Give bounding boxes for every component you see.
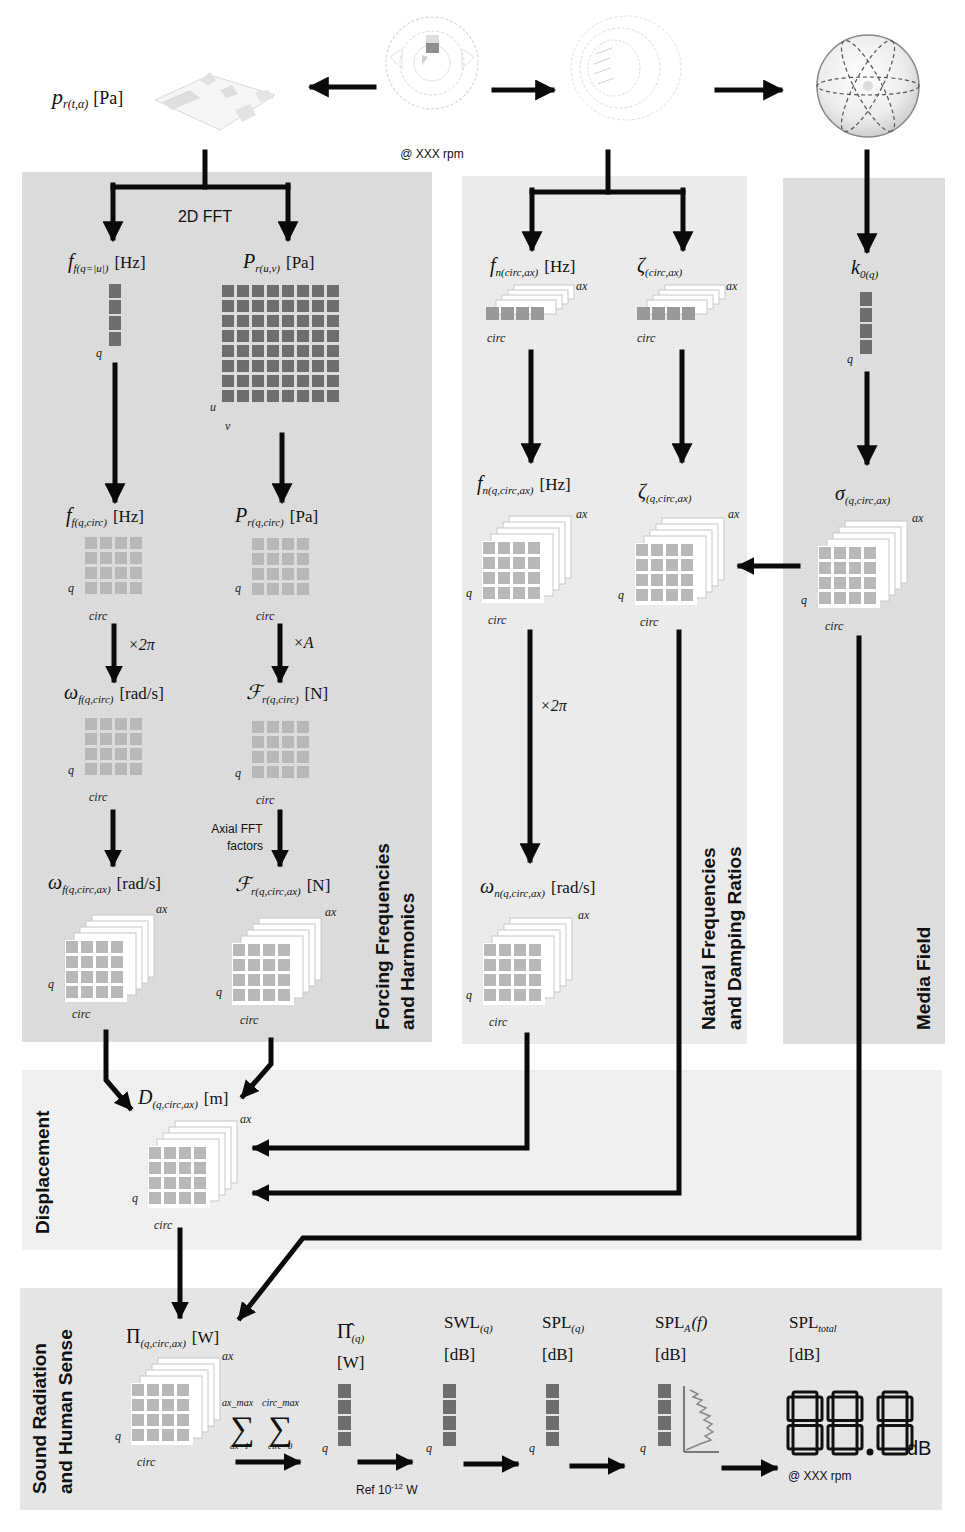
spl-total-display-caption: @ XXX rpm (788, 1469, 852, 1483)
spl-a-weighted-label: SPLA(f) (655, 1313, 708, 1334)
axis-circ: circ (89, 609, 108, 623)
radiation-sphere-icon (817, 35, 919, 137)
multiply-2pi-label-natural: ×2π (540, 697, 568, 714)
axis-q: q (466, 988, 472, 1002)
axis-ax: ax (156, 902, 168, 916)
spl-total-unit: [dB] (789, 1345, 820, 1364)
axis-q: q (216, 985, 222, 999)
sound-panel-title-2: and Human Sense (55, 1329, 76, 1494)
axis-circ: circ (240, 1013, 259, 1027)
multiply-2pi-label: ×2π (128, 636, 156, 653)
axis-q: q (68, 763, 74, 777)
axis-circ: circ (154, 1218, 173, 1232)
svg-text:ax=1: ax=1 (230, 1441, 249, 1451)
axis-q: q (529, 1441, 535, 1455)
axis-q: q (115, 1429, 121, 1443)
axis-circ: circ (489, 1015, 508, 1029)
axis-q: q (847, 352, 853, 366)
axis-q: q (801, 593, 807, 607)
axis-ax: ax (726, 279, 738, 293)
axis-circ: circ (637, 331, 656, 345)
axis-q: q (68, 581, 74, 595)
axis-circ: circ (89, 790, 108, 804)
axis-v: v (225, 419, 231, 433)
axis-ax: ax (912, 511, 924, 525)
axis-ax: ax (578, 908, 590, 922)
axis-circ: circ (488, 613, 507, 627)
axis-circ: circ (825, 619, 844, 633)
flow-diagram: pr(t,α)[Pa] @ XXX rpm (0, 0, 965, 1532)
axis-q: q (96, 346, 102, 360)
axis-ax: ax (240, 1112, 252, 1126)
axis-ax: ax (576, 507, 588, 521)
axis-q: q (132, 1191, 138, 1205)
stator-structure-icon (571, 16, 681, 120)
axis-circ: circ (137, 1455, 156, 1469)
top-row: pr(t,α)[Pa] @ XXX rpm (50, 16, 919, 161)
sound-power-q-unit: [W] (337, 1353, 364, 1372)
axis-circ: circ (256, 793, 275, 807)
axial-fft-label: Axial FFT (211, 822, 263, 836)
axis-u: u (210, 400, 216, 414)
axis-ax: ax (222, 1349, 234, 1363)
sound-panel-title: Sound Radiation (29, 1343, 50, 1494)
natural-panel-title-2: and Damping Ratios (724, 846, 745, 1030)
svg-text:ax_max: ax_max (222, 1397, 254, 1408)
spl-a-weighted-unit: [dB] (655, 1345, 686, 1364)
pressure-label: pr(t,α)[Pa] (50, 84, 123, 111)
fft-2d-label: 2D FFT (178, 208, 232, 225)
reference-power-label: Ref 10-12 W (356, 1482, 418, 1497)
forcing-panel-title-2: and Harmonics (397, 893, 418, 1030)
motor-speed-caption: @ XXX rpm (400, 147, 464, 161)
axial-fft-label-2: factors (227, 839, 263, 853)
natural-panel-title: Natural Frequencies (698, 847, 719, 1030)
axis-ax: ax (325, 905, 337, 919)
media-panel-title: Media Field (913, 927, 934, 1030)
axis-q: q (322, 1441, 328, 1455)
axis-q: q (466, 586, 472, 600)
axis-circ: circ (72, 1007, 91, 1021)
displacement-panel-title: Displacement (32, 1110, 53, 1234)
swl-unit: [dB] (444, 1345, 475, 1364)
axis-q: q (235, 766, 241, 780)
axis-q: q (235, 581, 241, 595)
axis-q: q (48, 977, 54, 991)
axis-ax: ax (728, 507, 740, 521)
axis-q: q (618, 588, 624, 602)
axis-circ: circ (487, 331, 506, 345)
pressure-surface-icon (155, 72, 275, 130)
axis-ax: ax (576, 279, 588, 293)
svg-text:circ=0: circ=0 (268, 1441, 293, 1451)
spl-total-display-unit: dB (907, 1437, 931, 1459)
axis-circ: circ (256, 609, 275, 623)
forcing-panel-title: Forcing Frequencies (372, 843, 393, 1030)
axis-q: q (426, 1441, 432, 1455)
axis-circ: circ (640, 615, 659, 629)
axis-q: q (640, 1441, 646, 1455)
spl-unit: [dB] (542, 1345, 573, 1364)
panel-backgrounds (20, 172, 945, 1510)
motor-cross-section-icon (386, 17, 478, 109)
svg-text:circ_max: circ_max (262, 1397, 299, 1408)
multiply-area-label: ×A (293, 634, 314, 651)
